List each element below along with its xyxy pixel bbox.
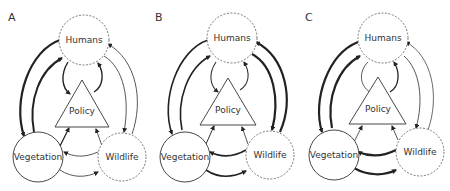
node-policy-label: Policy [215,105,242,115]
edge-vegetation-humans [32,58,62,132]
edge-humans-policy [361,62,370,92]
edge-vegetation-wildlife [60,170,98,176]
diagram-canvas: A Humans Policy Vegetation Wildlife B [0,0,450,191]
node-humans-label: Humans [65,35,102,45]
edge-humans-policy [211,62,218,92]
node-humans-label: Humans [213,33,250,43]
edge-humans-vegetation [168,40,208,134]
node-wildlife-label: Wildlife [105,152,139,162]
edge-wildlife-vegetation [210,150,246,156]
node-wildlife-label: Wildlife [253,150,287,160]
edge-vegetation-policy [60,128,69,146]
edge-policy-humans [390,62,398,92]
edge-wildlife-humans [406,42,433,130]
edge-humans-wildlife [404,56,420,128]
edge-wildlife-humans [256,42,287,132]
node-policy [55,80,109,127]
edge-humans-wildlife [104,56,126,132]
panel-label: A [8,11,16,24]
edge-vegetation-policy [354,126,362,142]
panel-a: A Humans Policy Vegetation Wildlife [8,11,146,182]
node-humans-label: Humans [364,33,401,43]
edge-wildlife-policy [96,129,102,146]
edge-humans-policy [63,62,70,94]
node-vegetation-label: Vegetation [161,152,210,162]
edge-wildlife-humans [108,44,137,134]
edge-policy-humans [94,63,102,92]
node-policy-label: Policy [69,106,96,116]
panel-c: C Humans Policy Vegetation Wildlife [305,11,444,180]
edge-wildlife-vegetation [358,150,396,156]
node-vegetation-label: Vegetation [310,150,359,160]
edge-wildlife-policy [392,126,398,140]
edge-wildlife-vegetation [64,152,98,156]
edge-vegetation-wildlife [206,170,246,176]
node-policy-label: Policy [365,104,392,114]
panel-b: B Humans Policy Vegetation Wildlife [155,11,294,182]
edge-vegetation-policy [206,126,214,144]
node-wildlife-label: Wildlife [403,147,437,157]
panel-label: B [155,11,163,24]
edge-vegetation-wildlife [354,168,396,174]
edge-policy-humans [240,62,248,90]
node-policy [200,78,256,125]
edge-wildlife-policy [242,127,248,144]
node-vegetation-label: Vegetation [14,152,63,162]
edge-humans-wildlife [252,54,275,130]
panel-label: C [305,11,313,24]
edge-humans-vegetation [20,40,60,136]
